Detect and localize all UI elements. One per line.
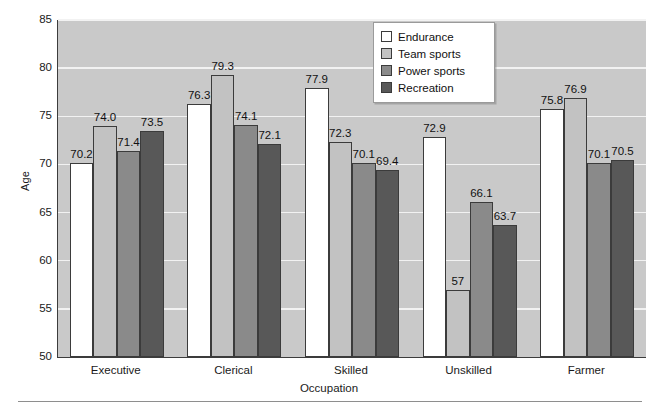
y-axis-ticks: 5055606570758085 — [20, 0, 52, 413]
bar — [70, 163, 94, 357]
bar — [234, 125, 258, 357]
bar-value-label: 74.1 — [228, 111, 264, 123]
legend-swatch-team-sports-icon — [381, 48, 392, 59]
legend-label: Recreation — [398, 82, 454, 94]
bar-chart-figure: Age 5055606570758085 70.274.071.473.576.… — [0, 0, 658, 413]
y-tick-label: 65 — [26, 207, 52, 219]
bar — [611, 160, 635, 357]
bar — [117, 151, 141, 357]
legend-label: Endurance — [398, 31, 454, 43]
bar — [587, 163, 611, 357]
bar-value-label: 72.9 — [417, 123, 453, 135]
bar — [93, 126, 117, 357]
bar — [140, 131, 164, 357]
y-tick-label: 50 — [26, 351, 52, 363]
bar-value-label: 76.9 — [558, 84, 594, 96]
bar-value-label: 70.5 — [605, 146, 641, 158]
bar — [187, 104, 211, 357]
y-tick-label: 70 — [26, 158, 52, 170]
legend-swatch-recreation-icon — [381, 82, 392, 93]
bar — [423, 137, 447, 357]
gridline — [58, 67, 646, 69]
chart-legend: Endurance Team sports Power sports Recre… — [373, 22, 495, 103]
bar — [376, 170, 400, 357]
y-tick-label: 75 — [26, 110, 52, 122]
bottom-divider — [18, 401, 642, 402]
gridline — [58, 19, 646, 21]
bar-value-label: 79.3 — [205, 61, 241, 73]
bar — [470, 202, 494, 357]
bar — [258, 144, 282, 357]
legend-item: Team sports — [381, 45, 487, 62]
bar-value-label: 63.7 — [487, 211, 523, 223]
y-tick-label: 80 — [26, 62, 52, 74]
y-tick-label: 60 — [26, 255, 52, 267]
bar-value-label: 73.5 — [134, 117, 170, 129]
legend-swatch-endurance-icon — [381, 31, 392, 42]
y-tick-label: 55 — [26, 303, 52, 315]
legend-label: Team sports — [398, 48, 461, 60]
legend-swatch-power-sports-icon — [381, 65, 392, 76]
bar — [352, 163, 376, 357]
legend-item: Recreation — [381, 79, 487, 96]
x-category-label: Clerical — [175, 364, 293, 376]
x-category-label: Executive — [57, 364, 175, 376]
legend-item: Endurance — [381, 28, 487, 45]
bar-value-label: 72.1 — [252, 130, 288, 142]
bar-value-label: 66.1 — [464, 188, 500, 200]
bar — [329, 142, 353, 357]
x-axis-title: Occupation — [0, 382, 658, 394]
legend-label: Power sports — [398, 65, 465, 77]
plot-area: 70.274.071.473.576.379.374.172.177.972.3… — [57, 20, 646, 358]
bar-value-label: 69.4 — [370, 156, 406, 168]
bar-value-label: 74.0 — [87, 112, 123, 124]
x-category-label: Unskilled — [410, 364, 528, 376]
x-category-label: Farmer — [527, 364, 645, 376]
bar — [564, 98, 588, 357]
legend-item: Power sports — [381, 62, 487, 79]
bar — [446, 290, 470, 357]
y-tick-label: 85 — [26, 14, 52, 26]
bar-value-label: 72.3 — [323, 128, 359, 140]
bar — [493, 225, 517, 357]
bar-value-label: 77.9 — [299, 74, 335, 86]
x-category-label: Skilled — [292, 364, 410, 376]
bar — [540, 109, 564, 357]
